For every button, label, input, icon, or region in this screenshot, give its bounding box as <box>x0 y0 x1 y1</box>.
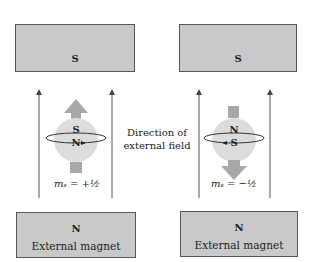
right-spin-down-arrow-icon <box>221 160 247 180</box>
right-spin-tail-icon <box>228 106 239 118</box>
caption-line-2: external field <box>122 140 192 151</box>
left-electron-bottom-pole: N <box>70 137 82 148</box>
right-electron-bottom-pole: S <box>228 137 240 148</box>
caption-line-1: Direction of <box>122 127 192 138</box>
left-electron-top-pole: S <box>70 124 82 135</box>
left-spin-tail-icon <box>70 162 82 173</box>
left-spin-label: mₛ = +½ <box>54 178 100 189</box>
right-electron-top-pole: N <box>228 124 240 135</box>
left-spin-up-arrow-icon <box>64 99 88 120</box>
right-spin-label: mₛ = −½ <box>211 178 257 189</box>
